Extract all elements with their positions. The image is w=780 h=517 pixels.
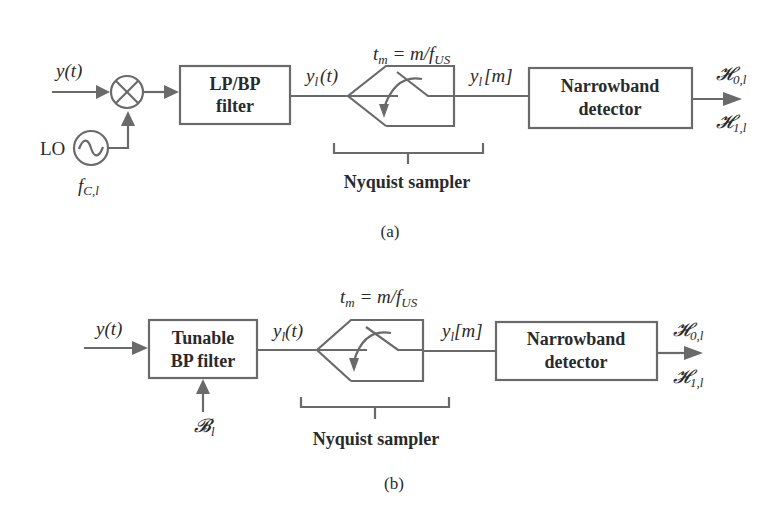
sampler-brace (334, 143, 483, 164)
filtered-signal-label: yl(t) (271, 320, 303, 344)
mixer-out-arrow-icon (164, 85, 179, 99)
sampled-signal-label: yl[m] (440, 320, 483, 344)
nyquist-sampler-block (317, 320, 423, 381)
band-control-arrow-icon (196, 379, 210, 394)
hypothesis-h0-label: 𝓗0,l (716, 63, 747, 87)
figure-a: y(t) LO fC,l LP/BP filter yl(t) tm = m/f… (40, 43, 747, 241)
hypothesis-h1-label: 𝓗1,l (673, 366, 704, 390)
detector-label-line2: detector (579, 99, 642, 119)
sampler-caption: Nyquist sampler (313, 429, 440, 449)
sampler-switch-arc (384, 78, 422, 108)
sampler-switch-arrow-icon (349, 358, 359, 372)
block-diagrams: y(t) LO fC,l LP/BP filter yl(t) tm = m/f… (0, 0, 780, 517)
sampler-brace (301, 397, 449, 419)
filtered-signal-label: yl(t) (304, 65, 338, 89)
figure-b-caption: (b) (384, 474, 404, 493)
output-arrow-icon (723, 92, 742, 106)
detector-label-line1: Narrowband (527, 329, 626, 349)
hypothesis-h0-label: 𝓗0,l (673, 319, 704, 343)
sampler-caption: Nyquist sampler (344, 172, 471, 192)
nyquist-sampler-block (348, 66, 454, 126)
figure-b: y(t) Tunable BP filter 𝓑l yl(t) tm = m/f… (84, 286, 704, 493)
lo-frequency-label: fC,l (78, 175, 99, 198)
filter-label-line1: LP/BP (209, 74, 260, 94)
lo-arrow-icon (121, 111, 135, 126)
detector-label-line1: Narrowband (561, 76, 660, 96)
detector-label-line2: detector (545, 352, 608, 372)
input-arrow-icon (132, 341, 148, 355)
input-arrow-icon (96, 85, 110, 99)
sampling-time-label: tm = m/fUS (373, 43, 451, 67)
sampler-switch-arc (354, 332, 391, 361)
sampler-switch-arrow-icon (379, 104, 389, 118)
filter-label-line1: Tunable (172, 328, 234, 348)
oscillator-icon (74, 131, 108, 165)
hypothesis-h1-label: 𝓗1,l (716, 111, 747, 135)
sampling-time-label: tm = m/fUS (340, 286, 418, 310)
band-label: 𝓑l (194, 415, 215, 439)
mixer-icon (111, 76, 143, 108)
filter-label-line2: filter (216, 96, 254, 116)
filter-label-line2: BP filter (171, 351, 235, 371)
sampled-signal-label: yl[m] (468, 65, 513, 89)
figure-a-caption: (a) (381, 222, 400, 241)
lo-label: LO (40, 138, 65, 159)
input-signal-label: y(t) (54, 60, 82, 82)
input-signal-label: y(t) (94, 318, 122, 340)
output-arrow-icon (684, 346, 703, 360)
